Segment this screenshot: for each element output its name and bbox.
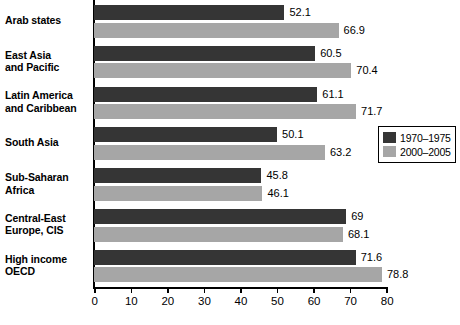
bar-0-0 xyxy=(94,5,284,20)
x-tick-label-0: 0 xyxy=(92,295,98,307)
category-label-line2: and Pacific xyxy=(5,61,91,74)
category-label-line1: Arab states xyxy=(5,14,61,26)
bar-value-label: 60.5 xyxy=(320,46,341,61)
category-label-0: Arab states xyxy=(5,14,91,27)
category-label-line2: Europe, CIS xyxy=(5,224,91,237)
category-label-1: East Asiaand Pacific xyxy=(5,49,91,74)
x-tick-label-4: 40 xyxy=(235,295,248,307)
category-label-4: Sub-SaharanAfrica xyxy=(5,171,91,196)
bar-value-label: 50.1 xyxy=(282,127,303,142)
bar-0-2 xyxy=(94,87,317,102)
x-tick-3 xyxy=(204,287,206,293)
bar-value-label: 66.9 xyxy=(344,23,365,38)
y-axis-line xyxy=(93,0,95,287)
bar-0-6 xyxy=(94,250,356,265)
bar-1-1 xyxy=(94,63,351,78)
category-label-line1: South Asia xyxy=(5,136,58,148)
x-tick-label-7: 70 xyxy=(344,295,357,307)
category-label-6: High incomeOECD xyxy=(5,253,91,278)
bar-1-6 xyxy=(94,267,382,282)
bar-0-1 xyxy=(94,46,315,61)
x-tick-0 xyxy=(94,287,96,293)
category-label-line2: Africa xyxy=(5,184,91,197)
category-label-line1: Central-East xyxy=(5,212,66,224)
bar-value-label: 69 xyxy=(351,209,363,224)
x-tick-label-8: 80 xyxy=(381,295,394,307)
legend-label: 1970–1975 xyxy=(400,132,451,144)
category-label-5: Central-EastEurope, CIS xyxy=(5,212,91,237)
category-label-line1: Sub-Saharan xyxy=(5,171,69,183)
category-label-2: Latin Americaand Caribbean xyxy=(5,89,91,114)
x-axis: 01020304050607080 xyxy=(93,287,460,325)
legend-item-0[interactable]: 1970–1975 xyxy=(383,131,452,144)
x-tick-label-5: 50 xyxy=(271,295,284,307)
bar-value-label: 68.1 xyxy=(348,227,369,242)
x-tick-8 xyxy=(386,287,388,293)
category-label-3: South Asia xyxy=(5,136,91,149)
bar-1-0 xyxy=(94,23,339,38)
bar-value-label: 71.7 xyxy=(361,104,382,119)
bar-value-label: 61.1 xyxy=(322,87,343,102)
x-tick-2 xyxy=(167,287,169,293)
bar-value-label: 52.1 xyxy=(289,5,310,20)
legend: 1970–19752000–2005 xyxy=(378,126,456,163)
legend-label: 2000–2005 xyxy=(400,146,451,158)
bar-1-5 xyxy=(94,227,343,242)
x-tick-label-2: 20 xyxy=(161,295,174,307)
x-tick-label-6: 60 xyxy=(308,295,321,307)
bar-0-3 xyxy=(94,127,277,142)
bar-1-2 xyxy=(94,104,356,119)
legend-swatch-icon xyxy=(383,132,396,143)
legend-item-1[interactable]: 2000–2005 xyxy=(383,145,452,158)
bar-value-label: 71.6 xyxy=(361,250,382,265)
bar-value-label: 63.2 xyxy=(330,145,351,160)
bar-value-label: 78.8 xyxy=(387,267,408,282)
x-tick-6 xyxy=(313,287,315,293)
x-tick-label-3: 30 xyxy=(198,295,211,307)
x-tick-4 xyxy=(240,287,242,293)
bar-1-3 xyxy=(94,145,325,160)
category-axis-labels: Arab statesEast Asiaand PacificLatin Ame… xyxy=(0,0,90,287)
x-tick-7 xyxy=(350,287,352,293)
x-tick-1 xyxy=(131,287,133,293)
category-label-line1: East Asia xyxy=(5,49,51,61)
bar-value-label: 46.1 xyxy=(267,186,288,201)
category-label-line2: OECD xyxy=(5,265,91,278)
bar-chart: Arab statesEast Asiaand PacificLatin Ame… xyxy=(0,0,460,325)
legend-swatch-icon xyxy=(383,146,396,157)
category-label-line1: Latin America xyxy=(5,89,73,101)
category-label-line1: High income xyxy=(5,253,67,265)
x-tick-5 xyxy=(277,287,279,293)
bar-0-4 xyxy=(94,168,261,183)
bar-value-label: 45.8 xyxy=(266,168,287,183)
bar-1-4 xyxy=(94,186,262,201)
bar-0-5 xyxy=(94,209,346,224)
category-label-line2: and Caribbean xyxy=(5,102,91,115)
bar-value-label: 70.4 xyxy=(356,63,377,78)
x-tick-label-1: 10 xyxy=(125,295,138,307)
